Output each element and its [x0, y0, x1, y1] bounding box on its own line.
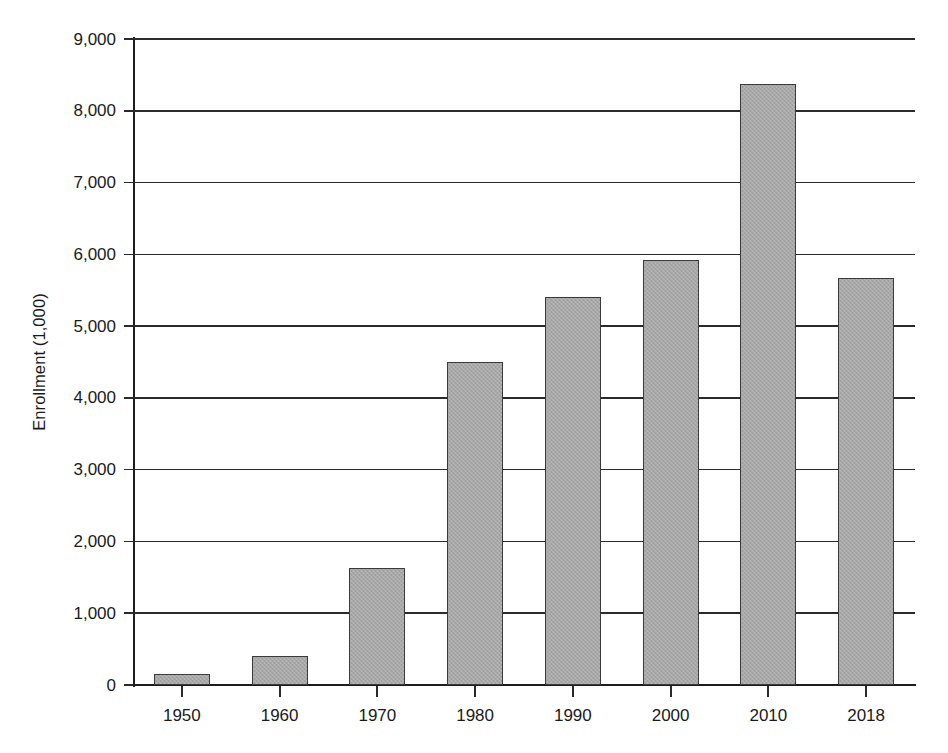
y-tick-label: 0 [20, 677, 116, 694]
plot-area [133, 39, 915, 685]
bar [545, 297, 601, 685]
y-axis-title: Enrollment (1,000) [26, 39, 52, 685]
bar [643, 260, 699, 685]
x-tick-label: 2010 [718, 707, 818, 724]
y-tick-label: 1,000 [20, 605, 116, 622]
y-tick-mark [124, 469, 133, 471]
y-tick-mark [124, 38, 133, 40]
y-tick-mark [124, 684, 133, 686]
x-tick-mark [474, 686, 476, 697]
x-tick-mark [181, 686, 183, 697]
y-tick-label: 4,000 [20, 389, 116, 406]
x-tick-mark [767, 686, 769, 697]
y-tick-label: 9,000 [20, 31, 116, 48]
x-tick-mark [670, 686, 672, 697]
bar [740, 84, 796, 685]
y-tick-label: 5,000 [20, 318, 116, 335]
y-tick-mark [124, 612, 133, 614]
bar [838, 278, 894, 685]
x-tick-label: 2000 [621, 707, 721, 724]
x-tick-label: 1980 [425, 707, 525, 724]
x-tick-label: 1990 [523, 707, 623, 724]
x-tick-label: 1960 [230, 707, 330, 724]
y-tick-mark [124, 325, 133, 327]
y-tick-label: 8,000 [20, 102, 116, 119]
y-tick-mark [124, 182, 133, 184]
y-tick-label: 3,000 [20, 461, 116, 478]
x-tick-mark [279, 686, 281, 697]
bar [447, 362, 503, 685]
bar-chart: Enrollment (1,000) 01,0002,0003,0004,000… [0, 0, 948, 753]
x-tick-mark [572, 686, 574, 697]
bar [349, 568, 405, 685]
x-tick-mark [865, 686, 867, 697]
x-tick-label: 1970 [327, 707, 427, 724]
bar [252, 656, 308, 685]
y-tick-mark [124, 254, 133, 256]
y-tick-mark [124, 110, 133, 112]
bar [154, 674, 210, 685]
y-tick-mark [124, 541, 133, 543]
y-tick-label: 2,000 [20, 533, 116, 550]
y-tick-label: 6,000 [20, 246, 116, 263]
x-tick-mark [376, 686, 378, 697]
x-tick-label: 1950 [132, 707, 232, 724]
x-tick-label: 2018 [816, 707, 916, 724]
y-tick-label: 7,000 [20, 174, 116, 191]
y-tick-mark [124, 397, 133, 399]
